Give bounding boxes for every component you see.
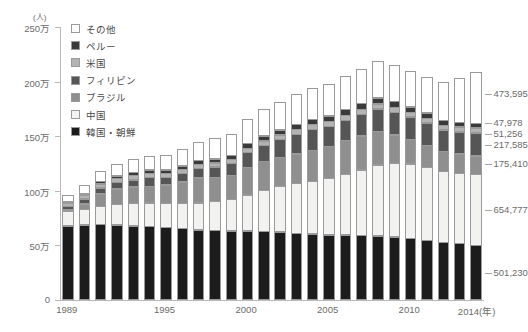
legend-item-2[interactable]: 米国 (71, 54, 136, 71)
legend-item-1[interactable]: ペルー (71, 37, 136, 54)
bar-column (323, 85, 334, 300)
bar-segment (95, 206, 106, 225)
x-axis-tick-label: 2014(年) (458, 304, 495, 318)
bar-column (95, 171, 106, 300)
legend-swatch-icon (71, 110, 80, 119)
bar-column (372, 62, 383, 300)
bar-segment (291, 233, 302, 300)
y-axis-tick-label: 200万 (24, 76, 50, 90)
bar-segment (177, 182, 188, 204)
bar-segment (307, 88, 318, 119)
y-axis-tick-label: 100万 (24, 185, 50, 199)
bar-segment (323, 126, 334, 146)
bar-segment (160, 185, 171, 204)
bar-segment (389, 112, 400, 135)
bar-segment (160, 227, 171, 300)
bar-segment (144, 156, 155, 171)
legend-item-4[interactable]: ブラジル (71, 89, 136, 106)
bar-segment (454, 78, 465, 123)
y-axis-tick-label: 50万 (29, 239, 50, 253)
callout-leader-line (485, 164, 492, 165)
legend-item-0[interactable]: その他 (71, 20, 136, 37)
bar-segment (95, 194, 106, 207)
segment-value-label: 501,230 (494, 267, 528, 278)
bar-segment (340, 120, 351, 141)
bar-segment (209, 167, 220, 178)
bar-segment (470, 156, 481, 175)
bar-segment (421, 167, 432, 241)
bar-column (258, 110, 269, 300)
bar-segment (128, 159, 139, 173)
bar-column (209, 139, 220, 300)
bar-segment (356, 69, 367, 104)
bar-segment (177, 228, 188, 300)
bar-segment (291, 134, 302, 154)
bar-segment (242, 195, 253, 232)
bar-segment (144, 226, 155, 300)
bar-segment (226, 231, 237, 301)
bar-column (307, 89, 318, 300)
callout-leader-line (485, 134, 492, 135)
legend-item-6[interactable]: 韓国・朝鮮 (71, 123, 136, 140)
legend-item-3[interactable]: フィリピン (71, 72, 136, 89)
bar-segment (177, 149, 188, 166)
bar-segment (340, 174, 351, 235)
bar-segment (421, 77, 432, 114)
bar-segment (307, 181, 318, 234)
legend-item-label: その他 (86, 22, 116, 36)
y-axis-tick-label: 250万 (24, 21, 50, 35)
bar-column (470, 73, 481, 300)
bar-segment (340, 140, 351, 174)
bar-segment (258, 190, 269, 232)
bar-column (111, 164, 122, 300)
bar-column (421, 77, 432, 300)
bar-segment (258, 231, 269, 300)
bar-segment (405, 238, 416, 300)
bar-segment (323, 235, 334, 300)
bar-segment (209, 138, 220, 159)
bar-segment (111, 164, 122, 176)
bar-segment (111, 225, 122, 300)
bar-segment (274, 186, 285, 232)
legend-item-label: ブラジル (86, 90, 126, 104)
callout-value: 175,410 (494, 158, 528, 169)
bar-segment (128, 187, 139, 204)
bar-segment (340, 76, 351, 110)
bar-segment (405, 139, 416, 164)
bar-segment (95, 171, 106, 182)
callout-value: 47,978 (494, 117, 523, 128)
bar-segment (470, 72, 481, 124)
bar-segment (372, 236, 383, 300)
bar-segment (111, 204, 122, 225)
callout-leader-line (485, 210, 492, 211)
bar-segment (405, 117, 416, 140)
legend-item-label: 韓国・朝鮮 (86, 125, 136, 139)
segment-value-label: 175,410 (494, 158, 528, 169)
callout-value: 51,256 (494, 128, 523, 139)
bar-segment (242, 167, 253, 195)
bar-segment (307, 150, 318, 181)
bar-segment (372, 61, 383, 98)
bar-segment (226, 199, 237, 231)
bar-segment (177, 203, 188, 229)
legend: その他ペルー米国フィリピンブラジル中国韓国・朝鮮 (71, 20, 136, 140)
bar-segment (274, 232, 285, 300)
y-axis-tick-label: 0 (45, 294, 50, 305)
x-axis-tick-label: 2005 (317, 304, 338, 315)
bar-segment (160, 203, 171, 227)
bar-segment (438, 151, 449, 172)
bar-column (79, 186, 90, 300)
bar-column (340, 77, 351, 300)
bar-segment (405, 71, 416, 108)
bar-segment (274, 139, 285, 157)
bar-segment (95, 224, 106, 300)
legend-item-5[interactable]: 中国 (71, 106, 136, 123)
bar-column (128, 160, 139, 300)
callout-leader-line (485, 145, 492, 146)
bar-column (160, 155, 171, 300)
bar-column (193, 142, 204, 300)
bar-segment (454, 243, 465, 300)
bar-segment (274, 157, 285, 186)
bar-segment (291, 94, 302, 124)
